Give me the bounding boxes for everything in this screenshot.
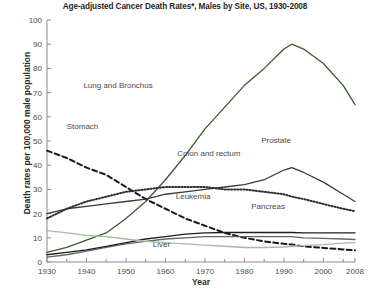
chart-figure: Age-adjusted Cancer Death Rates*, Males …: [0, 0, 370, 291]
x-tick-label: 1970: [196, 267, 214, 276]
x-tick-label: 1930: [38, 267, 56, 276]
series-label-prostate: Prostate: [261, 136, 291, 145]
y-tick-label: 30: [33, 185, 42, 194]
x-axis-ticks: 193019401950196019701980199020002008: [38, 258, 364, 276]
y-tick-label: 50: [33, 137, 42, 146]
y-tick-label: 60: [33, 113, 42, 122]
series-line-prostate: [47, 168, 355, 214]
series-label-liver: Liver: [153, 240, 171, 249]
y-tick-label: 90: [33, 40, 42, 49]
y-axis-title: Death rates per 100,000 male population: [22, 43, 32, 223]
series-label-pancreas: Pancreas: [251, 202, 285, 211]
series-label-stomach: Stomach: [67, 122, 99, 131]
y-tick-label: 100: [29, 16, 43, 25]
y-tick-label: 70: [33, 89, 42, 98]
y-tick-label: 0: [38, 258, 43, 267]
x-axis-title: Year: [47, 277, 355, 287]
x-tick-label: 2008: [346, 267, 364, 276]
x-tick-label: 1960: [157, 267, 175, 276]
x-tick-label: 1980: [236, 267, 254, 276]
x-tick-label: 1990: [275, 267, 293, 276]
series-label-lung-and-bronchus: Lung and Bronchus: [83, 81, 152, 90]
y-tick-label: 20: [33, 210, 42, 219]
series-label-leukemia: Leukemia: [176, 192, 211, 201]
y-tick-label: 10: [33, 234, 42, 243]
y-tick-label: 40: [33, 161, 42, 170]
y-tick-label: 80: [33, 64, 42, 73]
x-tick-label: 1950: [117, 267, 135, 276]
series-label-colon-and-rectum: Colon and rectum: [177, 149, 240, 158]
line-chart-plot: 0102030405060708090100 19301940195019601…: [0, 0, 370, 291]
series-label-group: Lung and BronchusStomachProstateColon an…: [67, 81, 292, 250]
x-tick-label: 1940: [78, 267, 96, 276]
x-tick-label: 2000: [315, 267, 333, 276]
